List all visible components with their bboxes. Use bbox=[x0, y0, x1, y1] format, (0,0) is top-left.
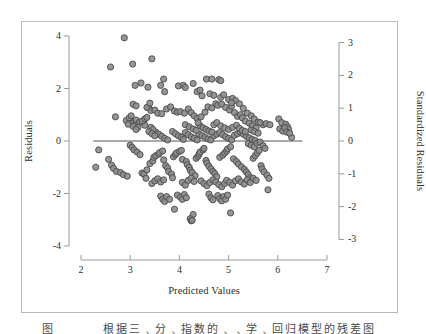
x-tick-label: 7 bbox=[315, 264, 339, 275]
y-tick-label-left: -2 bbox=[37, 188, 61, 199]
y-tick-label-right: 0 bbox=[348, 135, 372, 146]
y-axis-right-title: Standardized Residuals bbox=[415, 66, 426, 216]
y-tick-label-right: -3 bbox=[348, 233, 372, 244]
y-tick-label-right: 3 bbox=[348, 37, 372, 48]
figure-caption: 图 根据三﹑分﹑指数的﹑﹑学﹑回归模型的残差图 bbox=[0, 323, 418, 334]
y-tick-label-left: 4 bbox=[37, 30, 61, 41]
x-tick-label: 3 bbox=[118, 264, 142, 275]
y-tick-label-right: -2 bbox=[348, 201, 372, 212]
y-axis-left-title: Residuals bbox=[23, 96, 34, 186]
y-tick-label-left: 2 bbox=[37, 83, 61, 94]
x-tick-label: 5 bbox=[217, 264, 241, 275]
x-tick-label: 4 bbox=[167, 264, 191, 275]
y-tick-label-left: 0 bbox=[37, 135, 61, 146]
y-tick-label-right: -1 bbox=[348, 168, 372, 179]
x-tick-label: 6 bbox=[266, 264, 290, 275]
x-axis-title: Predicted Values bbox=[81, 285, 327, 296]
x-tick-label: 2 bbox=[69, 264, 93, 275]
y-tick-label-right: 2 bbox=[348, 69, 372, 80]
y-tick-label-right: 1 bbox=[348, 102, 372, 113]
y-tick-label-left: -4 bbox=[37, 240, 61, 251]
